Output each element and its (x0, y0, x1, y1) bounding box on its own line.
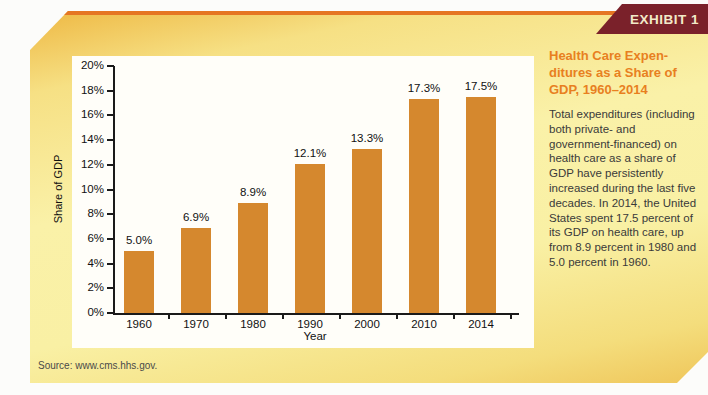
y-axis-tick-label: 0% (72, 306, 104, 318)
sidebar-description: Total expenditures (including both priva… (549, 107, 699, 270)
y-axis-tick (107, 139, 114, 141)
y-axis-tick-label: 16% (72, 108, 104, 120)
sidebar: Health Care Expen- ditures as a Share of… (549, 47, 699, 270)
x-axis-tick (282, 313, 284, 319)
y-axis-tick-label: 20% (72, 59, 104, 71)
y-axis-tick-label: 6% (72, 232, 104, 244)
y-axis-tick (107, 287, 114, 289)
exhibit-label: EXHIBIT 1 (630, 12, 699, 27)
bar-value-label: 8.9% (223, 186, 283, 198)
x-axis-category-label: 2014 (453, 318, 509, 330)
y-axis-tick (107, 263, 114, 265)
sidebar-title-line: ditures as a Share of (549, 64, 699, 81)
y-axis-tick-label: 4% (72, 257, 104, 269)
x-axis-category-label: 1970 (168, 318, 224, 330)
y-axis-tick-label: 18% (72, 84, 104, 96)
x-axis-category-label: 1960 (111, 318, 167, 330)
x-axis-tick (510, 313, 512, 319)
bar-1980 (238, 203, 268, 313)
x-axis-category-label: 1980 (225, 318, 281, 330)
y-axis-title: Share of GDP (52, 139, 64, 239)
y-axis-tick (107, 189, 114, 191)
sidebar-title: Health Care Expen- ditures as a Share of… (549, 47, 699, 98)
bar-value-label: 6.9% (166, 211, 226, 223)
y-axis-tick (107, 90, 114, 92)
sidebar-title-line: GDP, 1960–2014 (549, 81, 699, 98)
x-axis-tick (168, 313, 170, 319)
bar-1970 (181, 228, 211, 313)
y-axis-tick-label: 2% (72, 281, 104, 293)
sidebar-title-line: Health Care Expen- (549, 47, 699, 64)
x-axis-tick (396, 313, 398, 319)
y-axis-tick (107, 312, 114, 314)
y-axis-tick-label: 12% (72, 158, 104, 170)
source-citation: Source: www.cms.hhs.gov. (38, 360, 157, 371)
x-axis-category-label: 2000 (339, 318, 395, 330)
y-axis-tick (107, 114, 114, 116)
bar-value-label: 13.3% (337, 132, 397, 144)
x-axis-title: Year (113, 330, 517, 342)
bar-1990 (295, 164, 325, 313)
bar-value-label: 12.1% (280, 147, 340, 159)
y-axis-tick (107, 65, 114, 67)
y-axis-tick (107, 164, 114, 166)
bar-value-label: 5.0% (109, 234, 169, 246)
bar-value-label: 17.5% (451, 80, 511, 92)
exhibit-page: EXHIBIT 1 5.0%19606.9%19708.9%198012.1%1… (0, 0, 708, 395)
bar-2010 (409, 99, 439, 313)
y-axis-tick-label: 10% (72, 183, 104, 195)
y-axis-tick (107, 238, 114, 240)
x-axis-category-label: 2010 (396, 318, 452, 330)
exhibit-banner: EXHIBIT 1 (596, 4, 708, 34)
y-axis-tick-label: 14% (72, 133, 104, 145)
bar-1960 (124, 251, 154, 313)
bar-2000 (352, 149, 382, 313)
x-axis-tick (453, 313, 455, 319)
x-axis-tick (339, 313, 341, 319)
x-axis-category-label: 1990 (282, 318, 338, 330)
bar-value-label: 17.3% (394, 82, 454, 94)
y-axis-tick-label: 8% (72, 207, 104, 219)
panel-accent-line (30, 11, 708, 15)
bar-2014 (466, 97, 496, 313)
x-axis-tick (225, 313, 227, 319)
chart: 5.0%19606.9%19708.9%198012.1%199013.3%20… (72, 56, 534, 348)
y-axis-tick (107, 213, 114, 215)
plot-area: 5.0%19606.9%19708.9%198012.1%199013.3%20… (113, 66, 519, 315)
